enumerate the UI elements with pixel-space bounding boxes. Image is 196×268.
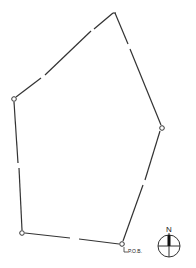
boundary-line-pob-bottomleft <box>79 239 119 244</box>
vertex-marker-pob <box>120 242 125 247</box>
pob-callout: P.O.B. <box>124 247 142 254</box>
survey-plat-diagram: P.O.B. N <box>0 0 196 268</box>
north-label: N <box>166 225 172 234</box>
vertex-markers <box>12 97 165 247</box>
boundary-line-left-top <box>94 13 113 29</box>
north-arrow: N <box>158 225 180 257</box>
boundary-lines <box>14 13 161 244</box>
boundary-line-bottomleft-left <box>14 102 18 163</box>
boundary-line-right-pob <box>123 185 143 241</box>
vertex-marker-right <box>160 126 165 131</box>
boundary-line-left-top <box>16 78 41 97</box>
vertex-marker-bottom-left <box>20 231 25 236</box>
boundary-line-pob-bottomleft <box>25 233 70 238</box>
boundary-line-right-pob <box>145 131 160 180</box>
north-arrow-needle <box>168 235 171 246</box>
boundary-line-left-top <box>45 31 91 75</box>
boundary-line-top-right <box>115 13 128 44</box>
boundary-line-top-right <box>130 49 161 125</box>
vertex-marker-left <box>12 97 17 102</box>
boundary-line-bottomleft-left <box>19 168 22 230</box>
pob-label: P.O.B. <box>128 248 142 254</box>
